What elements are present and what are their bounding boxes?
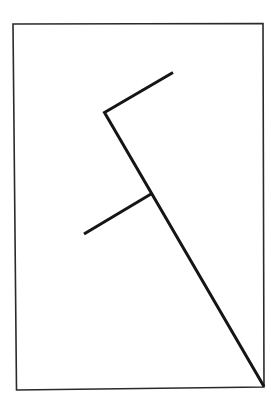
frame-border: [13, 24, 264, 391]
main-path-stroke: [105, 73, 265, 387]
branch-stroke: [84, 194, 151, 234]
figure-strokes: [84, 73, 264, 387]
diagram-canvas: [0, 0, 271, 404]
